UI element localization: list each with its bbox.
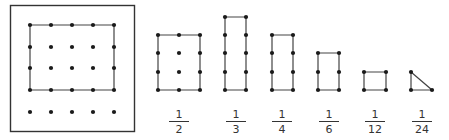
fraction-label-twenty-fourth: 1 24 bbox=[410, 109, 434, 135]
peg-dot bbox=[28, 110, 32, 114]
numerator: 1 bbox=[270, 109, 294, 120]
peg-dot bbox=[91, 66, 95, 70]
peg-dot bbox=[177, 88, 181, 92]
peg-dot bbox=[409, 88, 413, 92]
denominator: 24 bbox=[410, 124, 434, 135]
peg-dot bbox=[384, 70, 388, 74]
peg-dot bbox=[28, 66, 32, 70]
peg-dot bbox=[49, 110, 53, 114]
shape-outline bbox=[364, 72, 386, 90]
peg-dot bbox=[70, 88, 74, 92]
peg-dot bbox=[49, 45, 53, 49]
fraction-label-quarter: 1 4 bbox=[270, 109, 294, 135]
fraction-shape-1-6 bbox=[316, 51, 341, 92]
peg-dot bbox=[223, 33, 227, 37]
peg-dot bbox=[223, 51, 227, 55]
peg-dot bbox=[223, 15, 227, 19]
peg-dot bbox=[244, 33, 248, 37]
fraction-bar bbox=[319, 121, 339, 122]
peg-dot bbox=[291, 70, 295, 74]
peg-dot bbox=[156, 88, 160, 92]
fraction-label-twelfth: 1 12 bbox=[363, 109, 387, 135]
peg-dot bbox=[91, 23, 95, 27]
shape-outline bbox=[272, 35, 293, 90]
shape-outline bbox=[225, 17, 246, 90]
peg-dot bbox=[28, 88, 32, 92]
peg-dot bbox=[28, 23, 32, 27]
peg-dot bbox=[70, 66, 74, 70]
denominator: 2 bbox=[167, 124, 191, 135]
peg-dot bbox=[316, 51, 320, 55]
fraction-bar bbox=[226, 121, 246, 122]
peg-dot bbox=[28, 45, 32, 49]
peg-dot bbox=[270, 88, 274, 92]
fraction-shapes bbox=[156, 15, 434, 92]
peg-dot bbox=[177, 70, 181, 74]
numerator: 1 bbox=[167, 109, 191, 120]
fraction-label-half: 1 2 bbox=[167, 109, 191, 135]
peg-dot bbox=[223, 88, 227, 92]
peg-dot bbox=[70, 110, 74, 114]
peg-dot bbox=[156, 70, 160, 74]
denominator: 6 bbox=[317, 124, 341, 135]
peg-dot bbox=[156, 33, 160, 37]
peg-dot bbox=[49, 88, 53, 92]
peg-dot bbox=[91, 88, 95, 92]
denominator: 12 bbox=[363, 124, 387, 135]
numerator: 1 bbox=[224, 109, 248, 120]
peg-dot bbox=[316, 88, 320, 92]
peg-dot bbox=[244, 51, 248, 55]
peg-dot bbox=[112, 66, 116, 70]
whole-rectangle-outline bbox=[30, 25, 114, 90]
peg-dot bbox=[112, 110, 116, 114]
fraction-shape-1-4 bbox=[270, 33, 295, 92]
peg-dot bbox=[270, 33, 274, 37]
peg-dot bbox=[91, 110, 95, 114]
peg-dot bbox=[156, 51, 160, 55]
peg-dot bbox=[198, 88, 202, 92]
denominator: 3 bbox=[224, 124, 248, 135]
fraction-shape-1-3 bbox=[223, 15, 248, 92]
peg-dot bbox=[430, 88, 434, 92]
fraction-shape-1-2 bbox=[156, 33, 202, 92]
fraction-bar bbox=[412, 121, 432, 122]
peg-dot bbox=[112, 23, 116, 27]
peg-dot bbox=[337, 70, 341, 74]
fraction-bar bbox=[365, 121, 385, 122]
peg-dot bbox=[112, 45, 116, 49]
peg-dot bbox=[244, 70, 248, 74]
peg-dot bbox=[91, 45, 95, 49]
fraction-bar bbox=[272, 121, 292, 122]
peg-dot bbox=[49, 23, 53, 27]
shape-outline bbox=[411, 72, 432, 90]
peg-dot bbox=[337, 88, 341, 92]
peg-dot bbox=[49, 66, 53, 70]
peg-dot bbox=[270, 51, 274, 55]
fraction-shape-1-24 bbox=[409, 70, 434, 92]
numerator: 1 bbox=[410, 109, 434, 120]
peg-dot bbox=[337, 51, 341, 55]
peg-dot bbox=[198, 70, 202, 74]
peg-dot bbox=[70, 23, 74, 27]
numerator: 1 bbox=[317, 109, 341, 120]
denominator: 4 bbox=[270, 124, 294, 135]
fraction-bar bbox=[169, 121, 189, 122]
peg-dot bbox=[177, 51, 181, 55]
peg-dot bbox=[244, 88, 248, 92]
peg-dot bbox=[70, 45, 74, 49]
peg-dot bbox=[244, 15, 248, 19]
peg-dot bbox=[362, 88, 366, 92]
numerator: 1 bbox=[363, 109, 387, 120]
peg-dot bbox=[112, 88, 116, 92]
peg-dot bbox=[270, 70, 274, 74]
fraction-label-sixth: 1 6 bbox=[317, 109, 341, 135]
peg-dot bbox=[291, 33, 295, 37]
peg-dot bbox=[177, 33, 181, 37]
peg-dot bbox=[198, 51, 202, 55]
peg-dot bbox=[223, 70, 227, 74]
peg-dot bbox=[291, 51, 295, 55]
fraction-shape-1-12 bbox=[362, 70, 388, 92]
peg-dot bbox=[409, 70, 413, 74]
peg-dot bbox=[362, 70, 366, 74]
fraction-label-third: 1 3 bbox=[224, 109, 248, 135]
